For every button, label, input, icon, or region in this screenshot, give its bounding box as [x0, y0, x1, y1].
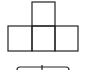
square-top: [32, 2, 55, 26]
square-bottom-left: [8, 26, 32, 51]
square-bottom-middle: [32, 26, 55, 51]
squares-group: [8, 2, 78, 51]
bracket-line: [17, 67, 69, 70]
square-bottom-right: [55, 26, 78, 51]
t-shape-net-diagram: [0, 0, 86, 70]
dimension-bracket: [17, 65, 69, 70]
